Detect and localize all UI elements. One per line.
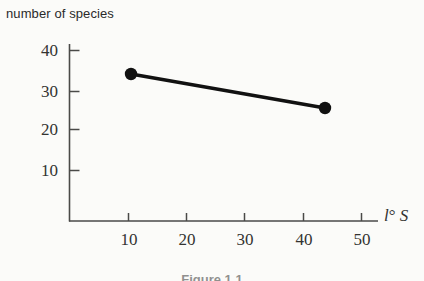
series-line	[131, 74, 325, 108]
y-tick-label-40: 40	[24, 42, 58, 59]
x-axis-hemisphere: S	[400, 206, 409, 225]
y-tick-label-30: 30	[24, 83, 58, 100]
x-tick-label-20: 20	[167, 231, 207, 248]
x-tick-label-30: 30	[225, 231, 265, 248]
x-tick-label-40: 40	[284, 231, 324, 248]
x-tick-label-10: 10	[109, 231, 149, 248]
x-tick-label-50: 50	[342, 231, 382, 248]
data-point-marker	[125, 68, 137, 80]
figure-caption: Figure 1.1	[0, 272, 424, 281]
y-tick-label-20: 20	[24, 121, 58, 138]
y-tick-label-10: 10	[24, 162, 58, 179]
figure-screenshot: number of species 40 30	[0, 0, 424, 281]
data-point-marker	[319, 102, 331, 114]
chart-plot-area: 40 30 20 10 10 20 30 40 50 l° S	[0, 0, 424, 281]
x-axis-title: l° S	[384, 207, 408, 224]
degree-icon: °	[389, 206, 396, 225]
